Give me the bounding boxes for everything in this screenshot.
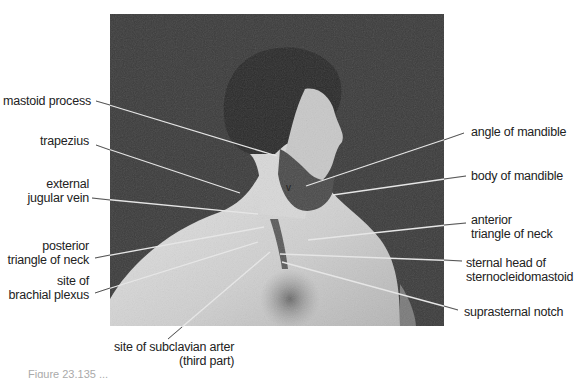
photo-figure-illustration bbox=[110, 14, 444, 326]
figure-caption: Figure 23.135 ... bbox=[28, 368, 108, 378]
label-site-of-subclavian-artery: site of subclavian arter (third part) bbox=[114, 340, 234, 368]
label-angle-of-mandible: angle of mandible bbox=[471, 125, 566, 139]
label-mastoid-process: mastoid process bbox=[3, 94, 91, 108]
label-body-of-mandible: body of mandible bbox=[471, 169, 563, 183]
label-suprasternal-notch: suprasternal notch bbox=[464, 305, 563, 319]
anatomy-photograph bbox=[110, 14, 444, 326]
label-site-of-brachial-plexus: site of brachial plexus bbox=[9, 274, 89, 302]
label-sternal-head-of-sternocleidomastoid: sternal head of sternocleidomastoid bbox=[466, 256, 573, 284]
label-trapezius: trapezius bbox=[40, 134, 89, 148]
label-anterior-triangle-of-neck: anterior triangle of neck bbox=[471, 213, 553, 241]
label-external-jugular-vein: external jugular vein bbox=[27, 177, 89, 205]
label-posterior-triangle-of-neck: posterior triangle of neck bbox=[7, 239, 89, 267]
